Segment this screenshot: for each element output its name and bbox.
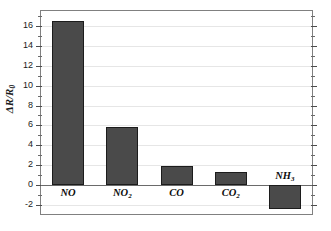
y-tick-label: 12 <box>23 60 33 70</box>
category-label: CO <box>169 187 184 198</box>
major-tick-left <box>36 145 42 146</box>
minor-tick-left <box>38 76 42 77</box>
major-tick-right <box>311 205 317 206</box>
major-tick-left <box>36 106 42 107</box>
minor-tick-right <box>311 36 315 37</box>
minor-tick-right <box>311 76 315 77</box>
major-tick-left <box>36 46 42 47</box>
minor-tick-right <box>311 195 315 196</box>
minor-tick-left <box>38 175 42 176</box>
y-axis-title-text: ΔR/R <box>3 89 15 114</box>
y-tick-label: 10 <box>23 80 33 90</box>
minor-tick-right <box>311 135 315 136</box>
major-tick-right <box>311 86 317 87</box>
minor-tick-left <box>38 16 42 17</box>
major-tick-left <box>36 26 42 27</box>
y-tick-label: 0 <box>28 179 33 189</box>
minor-tick-right <box>311 115 315 116</box>
bar <box>52 21 84 185</box>
minor-tick-left <box>38 155 42 156</box>
category-label: NH3 <box>275 170 294 183</box>
category-label-base: CO <box>169 187 184 198</box>
bar <box>106 127 138 185</box>
bar <box>161 166 193 185</box>
y-axis-title-subscript: 0 <box>8 85 17 89</box>
category-label-base: CO <box>222 187 237 198</box>
major-tick-right <box>311 145 317 146</box>
major-tick-right <box>311 106 317 107</box>
major-tick-left <box>36 205 42 206</box>
minor-tick-right <box>311 96 315 97</box>
y-tick-label: -2 <box>25 199 33 209</box>
category-label-base: NH <box>275 170 291 181</box>
minor-tick-left <box>38 36 42 37</box>
major-tick-right <box>311 66 317 67</box>
bar <box>269 185 301 209</box>
y-tick-label: 2 <box>28 159 33 169</box>
y-tick-label: 8 <box>28 100 33 110</box>
minor-tick-right <box>311 155 315 156</box>
category-label: CO2 <box>222 187 240 200</box>
category-label: NO <box>61 187 76 198</box>
major-tick-right <box>311 165 317 166</box>
minor-tick-right <box>311 56 315 57</box>
minor-tick-right <box>311 16 315 17</box>
minor-tick-left <box>38 96 42 97</box>
y-tick-label: 6 <box>28 119 33 129</box>
y-tick-label: 14 <box>23 40 33 50</box>
category-label-subscript: 3 <box>291 175 295 183</box>
plot-area: NONO2COCO2NH3 <box>40 10 313 215</box>
major-tick-right <box>311 125 317 126</box>
minor-tick-left <box>38 56 42 57</box>
y-tick-label: 4 <box>28 139 33 149</box>
major-tick-left <box>36 86 42 87</box>
minor-tick-left <box>38 195 42 196</box>
bar-chart: ΔR/R0 NONO2COCO2NH3 1614121086420-2 <box>0 0 331 231</box>
y-axis-title: ΔR/R0 <box>3 71 17 127</box>
major-tick-right <box>311 26 317 27</box>
major-tick-left <box>36 165 42 166</box>
major-tick-left <box>36 125 42 126</box>
category-label-base: NO <box>61 187 76 198</box>
major-tick-right <box>311 46 317 47</box>
category-label-subscript: 2 <box>236 192 240 200</box>
bar <box>215 172 247 185</box>
y-tick-label: 16 <box>23 20 33 30</box>
category-label: NO2 <box>113 187 132 200</box>
category-label-base: NO <box>113 187 128 198</box>
category-label-subscript: 2 <box>128 192 132 200</box>
minor-tick-left <box>38 115 42 116</box>
major-tick-left <box>36 66 42 67</box>
minor-tick-left <box>38 135 42 136</box>
minor-tick-right <box>311 175 315 176</box>
